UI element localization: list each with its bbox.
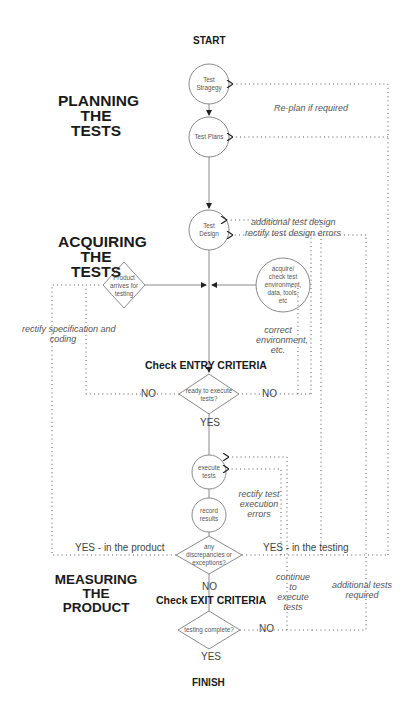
note-correct-environment: correct environment, etc. <box>256 325 300 355</box>
node-text-line: any <box>179 543 239 551</box>
note-rectify-test-design: rectify test design errors <box>245 228 341 238</box>
section-planning: PLANNING THE TESTS <box>58 93 134 138</box>
note-line: rectify test <box>237 489 281 499</box>
node-execute-tests-label[interactable]: execute tests <box>191 464 227 480</box>
node-record-results-label[interactable]: record results <box>191 507 227 523</box>
node-text-line: record <box>191 507 227 515</box>
node-text-line: ready to execute <box>181 387 237 395</box>
section-measuring-line2: PRODUCT <box>40 601 152 615</box>
finish-label: FINISH <box>192 677 225 688</box>
node-text-line: execute <box>191 464 227 472</box>
node-text-line: acquire/ <box>258 265 308 273</box>
note-line: execute <box>274 592 312 602</box>
note-line: continue <box>274 572 312 582</box>
note-line: rectify specification and <box>22 324 104 334</box>
section-measuring-line1: MEASURING THE <box>40 573 152 601</box>
note-line: coding <box>22 334 104 344</box>
note-line: tests <box>274 602 312 612</box>
node-text-line: check test <box>258 273 308 281</box>
node-text-line: etc <box>258 297 308 305</box>
section-acquiring: ACQUIRING THE TESTS <box>58 234 134 279</box>
note-additional-test-design: additional test design <box>251 217 336 227</box>
note-rectify-spec: rectify specification and coding <box>22 324 104 344</box>
note-line: errors <box>237 509 281 519</box>
entry-no-left: NO <box>141 388 156 399</box>
node-test-design-label[interactable]: Test Design <box>189 222 229 238</box>
node-ready-to-execute-label[interactable]: ready to execute tests? <box>181 387 237 403</box>
node-text-line: exceptions? <box>179 559 239 567</box>
note-additional-tests: additional tests required <box>330 580 394 600</box>
section-measuring: MEASURING THE PRODUCT <box>40 573 152 615</box>
note-line: additional tests <box>330 580 394 590</box>
discrepancy-no: NO <box>202 581 217 592</box>
yes-in-the-product: YES - in the product <box>75 542 165 553</box>
node-text-line: tests? <box>181 395 237 403</box>
note-line: required <box>330 590 394 600</box>
solid-flow-lines <box>145 104 256 611</box>
start-label: START <box>193 35 226 46</box>
entry-no-right: NO <box>262 388 277 399</box>
node-text-line: Product <box>104 274 144 282</box>
node-text-line: results <box>191 515 227 523</box>
note-line: environment, <box>256 335 300 345</box>
node-text-line: Test <box>189 76 229 84</box>
yes-in-the-testing: YES - in the testing <box>263 542 349 553</box>
node-text-line: testing <box>104 290 144 298</box>
note-line: etc. <box>256 345 300 355</box>
entry-criteria-label: Check ENTRY CRITERIA <box>145 359 267 371</box>
section-acquiring-line1: ACQUIRING <box>58 234 134 249</box>
node-test-plans-label[interactable]: Test Plans <box>189 133 229 141</box>
note-line: execution <box>237 499 281 509</box>
section-planning-line1: PLANNING <box>58 93 134 108</box>
node-test-strategy-label[interactable]: Test Stragegy <box>189 76 229 92</box>
node-text-line: arrives for <box>104 282 144 290</box>
note-continue-execute: continue to execute tests <box>274 572 312 612</box>
node-text-line: Design <box>189 230 229 238</box>
node-text-line: tests <box>191 472 227 480</box>
entry-yes: YES <box>200 417 220 428</box>
node-any-discrepancies-label[interactable]: any discrepancies or exceptions? <box>179 543 239 567</box>
section-planning-line2: THE TESTS <box>58 108 134 138</box>
note-line: to <box>274 582 312 592</box>
note-rectify-test-execution: rectify test execution errors <box>237 489 281 519</box>
exit-no: NO <box>259 623 274 634</box>
node-product-arrives-label[interactable]: Product arrives for testing <box>104 274 144 298</box>
node-text-line: data, tools, <box>258 289 308 297</box>
node-acquire-env-label[interactable]: acquire/ check test environment, data, t… <box>258 265 308 305</box>
node-testing-complete-label[interactable]: testing complete? <box>179 626 239 634</box>
node-text-line: environment, <box>258 281 308 289</box>
node-text-line: Test <box>189 222 229 230</box>
note-replan: Re-plan if required <box>274 103 348 113</box>
node-text-line: discrepancies or <box>179 551 239 559</box>
node-text-line: Stragegy <box>189 84 229 92</box>
note-line: correct <box>256 325 300 335</box>
exit-criteria-label: Check EXIT CRITERIA <box>156 594 266 606</box>
exit-yes: YES <box>201 651 221 662</box>
